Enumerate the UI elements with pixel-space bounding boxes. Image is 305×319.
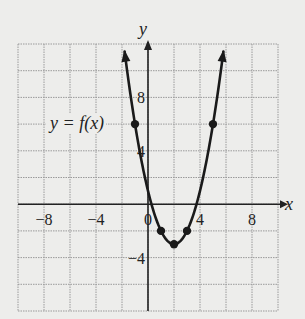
data-point <box>131 120 139 128</box>
axes: −8−404884−4 <box>18 40 288 311</box>
y-tick-label: −4 <box>128 250 145 267</box>
x-tick-label: 8 <box>248 211 256 228</box>
labels: x y y = f(x) <box>46 19 293 214</box>
y-axis-label: y <box>137 19 147 39</box>
x-tick-label: −8 <box>35 211 52 228</box>
function-graph: −8−404884−4 x y y = f(x) <box>0 0 305 319</box>
x-tick-label: 0 <box>144 211 152 228</box>
y-axis-arrow-icon <box>144 40 152 50</box>
x-axis-label: x <box>284 194 293 214</box>
data-point <box>170 240 178 248</box>
data-point <box>209 120 217 128</box>
data-point <box>183 227 191 235</box>
x-tick-label: −4 <box>87 211 104 228</box>
curve-label: y = f(x) <box>48 113 104 134</box>
x-tick-label: 4 <box>196 211 204 228</box>
data-point <box>157 227 165 235</box>
y-tick-label: 8 <box>137 89 145 106</box>
